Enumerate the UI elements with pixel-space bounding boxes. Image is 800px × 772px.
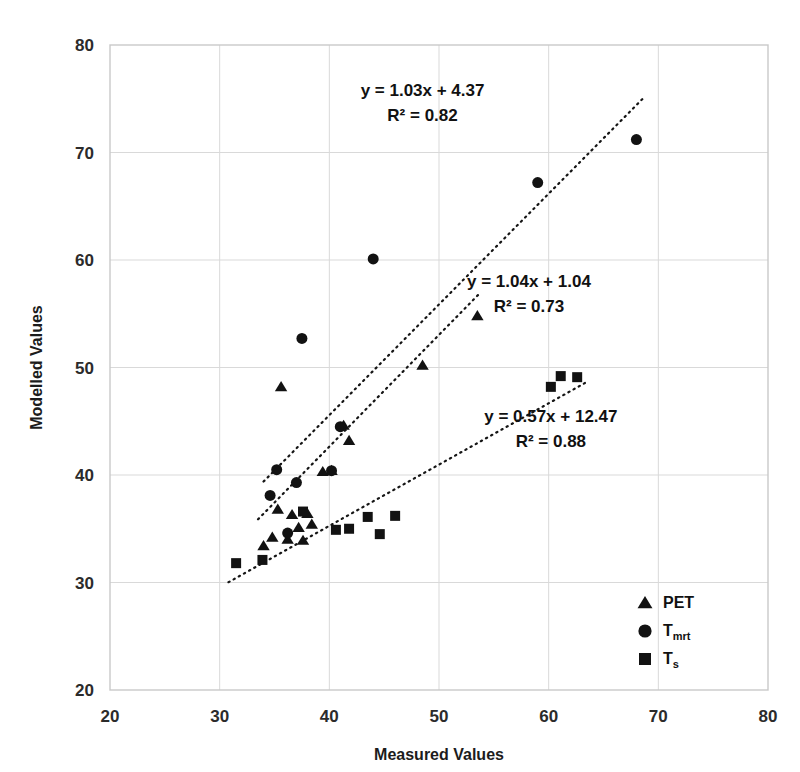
data-point-pet	[286, 509, 298, 519]
y-tick-label: 40	[75, 466, 94, 485]
data-point-ts	[390, 511, 400, 521]
legend-item-pet[interactable]: PET	[638, 594, 695, 611]
data-point-pet	[471, 310, 483, 320]
legend-label-pet: PET	[663, 594, 694, 611]
data-point-ts	[257, 555, 267, 565]
legend-label-ts: Ts	[663, 650, 679, 670]
ann-tmrt: y = 1.03x + 4.37R² = 0.82	[361, 81, 485, 125]
data-point-ts	[546, 382, 556, 392]
legend-item-ts[interactable]: Ts	[639, 650, 679, 670]
x-tick-label: 40	[320, 707, 339, 726]
y-axis-title: Modelled Values	[28, 305, 45, 430]
x-tick-label: 30	[210, 707, 229, 726]
data-point-pet	[297, 535, 309, 545]
data-point-tmrt	[282, 528, 293, 539]
series-tmrt	[265, 134, 642, 538]
ann-pet: y = 1.04x + 1.04R² = 0.73	[467, 272, 591, 316]
legend-item-tmrt[interactable]: Tmrt	[638, 622, 690, 642]
legend-label-tmrt: Tmrt	[663, 622, 691, 642]
data-point-pet	[306, 519, 318, 529]
series-ts	[231, 371, 582, 568]
data-point-pet	[272, 504, 284, 514]
ann-pet-equation: y = 1.04x + 1.04	[467, 272, 591, 291]
trend-lines	[228, 96, 645, 582]
y-tick-label: 20	[75, 681, 94, 700]
ann-ts-equation: y = 0.57x + 12.47	[484, 407, 617, 426]
data-point-pet	[292, 522, 304, 532]
data-point-tmrt	[368, 253, 379, 264]
y-axis-ticks: 20304050607080	[75, 36, 94, 700]
equation-annotations: y = 1.03x + 4.37R² = 0.82y = 1.04x + 1.0…	[361, 81, 618, 452]
data-points	[231, 134, 642, 568]
y-tick-label: 70	[75, 144, 94, 163]
data-point-tmrt	[532, 177, 543, 188]
data-point-ts	[344, 524, 354, 534]
scatter-chart: 20304050607080 20304050607080 Modelled V…	[0, 0, 800, 772]
ann-tmrt-r2: R² = 0.82	[387, 106, 457, 125]
x-tick-label: 80	[759, 707, 778, 726]
y-tick-label: 30	[75, 574, 94, 593]
y-tick-label: 60	[75, 251, 94, 270]
data-point-tmrt	[296, 333, 307, 344]
legend-marker-circle	[638, 624, 651, 637]
data-point-pet	[343, 435, 355, 445]
x-axis-ticks: 20304050607080	[101, 707, 778, 726]
data-point-tmrt	[291, 477, 302, 488]
ann-tmrt-equation: y = 1.03x + 4.37	[361, 81, 485, 100]
data-point-tmrt	[335, 421, 346, 432]
y-tick-label: 50	[75, 359, 94, 378]
x-tick-label: 20	[101, 707, 120, 726]
x-tick-label: 70	[649, 707, 668, 726]
x-tick-label: 60	[539, 707, 558, 726]
legend-marker-triangle	[638, 596, 653, 608]
ann-ts: y = 0.57x + 12.47R² = 0.88	[484, 407, 617, 451]
data-point-ts	[363, 512, 373, 522]
data-point-tmrt	[631, 134, 642, 145]
data-point-ts	[298, 507, 308, 517]
data-point-tmrt	[271, 464, 282, 475]
data-point-ts	[572, 372, 582, 382]
x-axis-title: Measured Values	[374, 746, 504, 763]
data-point-pet	[275, 381, 287, 391]
trend-line-pet	[258, 292, 481, 519]
data-point-pet	[416, 359, 428, 369]
data-point-tmrt	[326, 465, 337, 476]
ann-pet-r2: R² = 0.73	[494, 297, 564, 316]
x-tick-label: 50	[430, 707, 449, 726]
chart-canvas: 20304050607080 20304050607080 Modelled V…	[0, 0, 800, 772]
data-point-ts	[375, 529, 385, 539]
data-point-ts	[231, 558, 241, 568]
ann-ts-r2: R² = 0.88	[516, 432, 586, 451]
data-point-ts	[331, 525, 341, 535]
legend-marker-square	[639, 653, 651, 665]
chart-legend: PETTmrtTs	[638, 594, 695, 670]
y-tick-label: 80	[75, 36, 94, 55]
data-point-ts	[556, 371, 566, 381]
data-point-tmrt	[265, 490, 276, 501]
data-point-pet	[266, 531, 278, 541]
